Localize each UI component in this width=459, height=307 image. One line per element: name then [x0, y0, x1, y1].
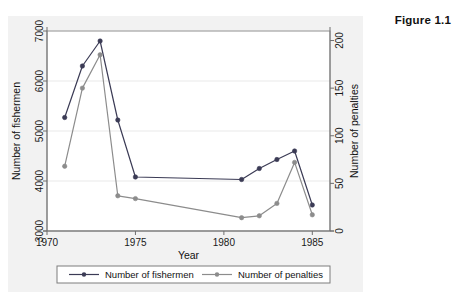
x-axis-tick-label: 1985 [301, 237, 324, 248]
data-point [116, 118, 120, 122]
y-axis-right-tick-label: 150 [334, 79, 345, 96]
y-axis-right-tick-label: 50 [334, 177, 345, 189]
data-point [80, 86, 84, 90]
y-axis-left-tick-label: 6000 [34, 69, 45, 92]
y-axis-left-tick-label: 5000 [34, 119, 45, 142]
data-point [133, 196, 137, 200]
x-axis-tick-label: 1980 [213, 237, 236, 248]
figure-caption: Figure 1.1 [395, 14, 451, 26]
legend-label: Number of fishermen [105, 269, 194, 280]
data-point [292, 149, 296, 153]
data-point [62, 164, 66, 168]
legend-label: Number of penalties [238, 269, 323, 280]
line-chart: 30004000500060007000Number of fishermen0… [0, 0, 459, 307]
data-point [257, 166, 261, 170]
data-point [310, 213, 314, 217]
data-point [98, 39, 102, 43]
data-point [116, 194, 120, 198]
data-point [292, 160, 296, 164]
figure-container: 30004000500060007000Number of fishermen0… [0, 0, 459, 307]
y-axis-right-tick-label: 0 [334, 228, 345, 234]
data-point [62, 115, 66, 119]
x-axis-title: Year [178, 249, 200, 261]
data-point [133, 175, 137, 179]
data-point [310, 203, 314, 207]
y-axis-right-tick-label: 200 [334, 32, 345, 49]
x-axis-tick-label: 1970 [36, 237, 59, 248]
y-axis-right-title: Number of penalties [348, 84, 360, 178]
data-point [275, 157, 279, 161]
y-axis-left-title: Number of fishermen [10, 82, 22, 180]
legend-marker [215, 272, 219, 276]
y-axis-left-tick-label: 7000 [34, 19, 45, 42]
legend-marker [82, 272, 86, 276]
data-point [257, 214, 261, 218]
data-point [239, 177, 243, 181]
x-axis-tick-label: 1975 [124, 237, 147, 248]
data-point [98, 53, 102, 57]
y-axis-right-tick-label: 100 [334, 127, 345, 144]
data-point [275, 201, 279, 205]
data-point [80, 64, 84, 68]
y-axis-left-tick-label: 4000 [34, 169, 45, 192]
data-point [239, 216, 243, 220]
